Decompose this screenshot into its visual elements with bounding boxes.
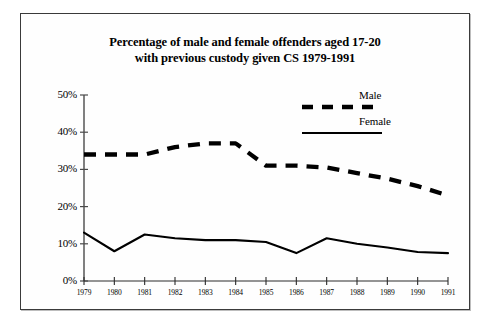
legend-label-female: Female	[359, 115, 391, 127]
chart-title-line-2: with previous custody given CS 1979-1991	[21, 50, 469, 66]
y-axis-label: 50%	[43, 88, 77, 100]
data-series-layer	[84, 143, 448, 253]
series-line-male	[84, 143, 448, 195]
series-line-female	[84, 233, 448, 253]
y-axis-label: 0%	[43, 274, 77, 286]
y-axis-label: 10%	[43, 237, 77, 249]
y-axis-label: 30%	[43, 162, 77, 174]
line-chart-svg	[62, 89, 452, 304]
chart-title: Percentage of male and female offenders …	[21, 34, 469, 66]
axes-group	[84, 95, 448, 281]
y-axis-label: 20%	[43, 200, 77, 212]
chart-title-line-1: Percentage of male and female offenders …	[21, 34, 469, 50]
y-axis-label: 40%	[43, 125, 77, 137]
x-axis-label: 1991	[428, 288, 468, 297]
plot-area	[62, 89, 452, 304]
chart-frame: Percentage of male and female offenders …	[20, 13, 470, 310]
legend-label-male: Male	[359, 89, 381, 101]
